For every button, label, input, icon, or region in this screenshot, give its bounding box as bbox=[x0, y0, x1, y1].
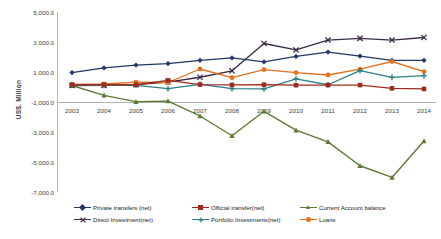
data-point-circle bbox=[294, 70, 299, 75]
data-point-circle bbox=[262, 67, 267, 72]
data-point-square bbox=[134, 82, 139, 87]
data-point-plus bbox=[165, 86, 171, 92]
data-point-circle bbox=[390, 59, 395, 64]
data-point-diamond bbox=[229, 55, 234, 60]
legend-item-private-transfers-net[interactable]: Private transfers (net) bbox=[74, 201, 192, 213]
series-current-account-balance bbox=[69, 83, 426, 180]
data-point-square bbox=[102, 82, 107, 87]
legend-label: Direct Investment(net) bbox=[93, 216, 153, 223]
data-point-square bbox=[358, 83, 363, 88]
chart-container: US$. Million 5,000.03,000.01,000.0-1,000… bbox=[0, 0, 441, 239]
legend-marker-x-icon bbox=[74, 215, 91, 224]
data-point-diamond bbox=[421, 58, 426, 63]
data-point-square bbox=[422, 87, 427, 92]
data-point-triangle bbox=[421, 138, 426, 143]
data-point-square bbox=[166, 78, 171, 83]
chart-legend: Private transfers (net)Official transfer… bbox=[74, 201, 424, 225]
data-point-square bbox=[390, 86, 395, 91]
data-point-circle bbox=[198, 67, 203, 72]
legend-marker-plus-icon bbox=[192, 215, 209, 224]
legend-label: Loans bbox=[319, 216, 336, 223]
legend-marker-diamond-icon bbox=[74, 203, 91, 212]
series-private-transfers-net bbox=[69, 49, 426, 75]
data-point-diamond bbox=[133, 63, 138, 68]
legend-item-portfolio-investments-net[interactable]: Portfolio Investments(net) bbox=[192, 213, 300, 225]
data-point-diamond bbox=[293, 54, 298, 59]
legend-label: Private transfers (net) bbox=[93, 204, 152, 211]
legend-label: Current Account balance bbox=[319, 204, 386, 211]
legend-item-direct-investment-net[interactable]: Direct Investment(net) bbox=[74, 213, 192, 225]
data-point-diamond bbox=[165, 61, 170, 66]
data-point-diamond bbox=[69, 70, 74, 75]
data-point-diamond bbox=[325, 49, 330, 54]
data-point-square bbox=[294, 83, 299, 88]
legend-label: Official transfer(net) bbox=[211, 204, 264, 211]
data-point-square bbox=[326, 83, 331, 88]
series-portfolio-investments-net bbox=[69, 68, 427, 92]
data-point-plus bbox=[421, 73, 427, 79]
legend-marker-circle-icon bbox=[300, 215, 317, 224]
legend-item-current-account-balance[interactable]: Current Account balance bbox=[300, 201, 424, 213]
data-point-plus bbox=[293, 76, 299, 82]
data-point-diamond bbox=[357, 54, 362, 59]
data-point-square bbox=[230, 83, 235, 88]
data-point-square bbox=[198, 82, 203, 87]
data-point-plus bbox=[389, 75, 395, 81]
data-point-plus bbox=[261, 86, 267, 92]
data-point-circle bbox=[230, 75, 235, 80]
data-point-diamond bbox=[101, 65, 106, 70]
legend-marker-triangle-icon bbox=[300, 203, 317, 212]
data-point-diamond bbox=[261, 59, 266, 64]
data-point-triangle bbox=[261, 109, 266, 114]
data-point-square bbox=[262, 82, 267, 87]
legend-item-official-transfer-net[interactable]: Official transfer(net) bbox=[192, 201, 300, 213]
legend-marker-square-icon bbox=[192, 203, 209, 212]
legend-item-loans[interactable]: Loans bbox=[300, 213, 424, 225]
data-point-diamond bbox=[197, 58, 202, 63]
series-direct-investment-net bbox=[69, 35, 426, 88]
legend-label: Portfolio Investments(net) bbox=[211, 216, 280, 223]
data-point-square bbox=[70, 82, 75, 87]
data-point-circle bbox=[326, 73, 331, 78]
